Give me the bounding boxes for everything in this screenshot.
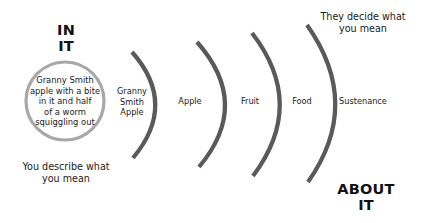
they-decide-caption-line2: you mean	[306, 23, 420, 35]
level-label-apple: Apple	[170, 96, 210, 107]
core-line: squiggling out	[20, 117, 110, 128]
they-decide-caption-line1: They decide what	[306, 11, 420, 23]
about-it-heading-line2: IT	[334, 197, 398, 213]
core-line: of a worm	[20, 107, 110, 118]
level-label-line: Apple	[110, 107, 154, 118]
in-it-heading: IN IT	[50, 22, 82, 54]
they-decide-caption: They decide what you mean	[306, 11, 420, 34]
you-describe-caption-line2: you mean	[14, 173, 118, 185]
level-label-sustenance: Sustenance	[330, 96, 396, 107]
core-line: apple with a bite	[20, 86, 110, 97]
core-line: in it and half	[20, 96, 110, 107]
level-label-line: Apple	[170, 96, 210, 107]
level-label-line: Sustenance	[330, 96, 396, 107]
about-it-heading-line1: ABOUT	[334, 181, 398, 197]
about-it-heading: ABOUT IT	[334, 181, 398, 213]
you-describe-caption-line1: You describe what	[14, 161, 118, 173]
level-label-line: Smith	[110, 97, 154, 108]
you-describe-caption: You describe what you mean	[14, 161, 118, 184]
core-description: Granny Smith apple with a bite in it and…	[20, 75, 110, 128]
level-label-food: Food	[284, 96, 320, 107]
level-label-line: Food	[284, 96, 320, 107]
level-label-fruit: Fruit	[232, 96, 268, 107]
in-it-heading-line2: IT	[50, 38, 82, 54]
core-line: Granny Smith	[20, 75, 110, 86]
in-it-heading-line1: IN	[50, 22, 82, 38]
level-label-line: Fruit	[232, 96, 268, 107]
level-label-granny-smith-apple: Granny Smith Apple	[110, 86, 154, 118]
level-label-line: Granny	[110, 86, 154, 97]
